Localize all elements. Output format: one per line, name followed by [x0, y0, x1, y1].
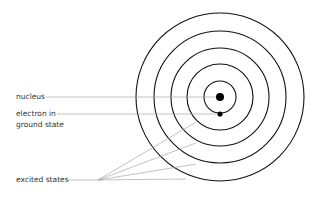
atom-diagram — [0, 0, 320, 198]
nucleus-label: nucleus — [16, 92, 45, 102]
excited-leader-4 — [98, 179, 186, 180]
electron — [217, 111, 222, 116]
electron-label-line2: ground state — [16, 120, 64, 130]
electron-label-line1: electron in — [16, 109, 56, 119]
excited-states-label: excited states — [16, 175, 69, 185]
nucleus — [216, 93, 224, 101]
excited-leader-2 — [98, 143, 196, 180]
